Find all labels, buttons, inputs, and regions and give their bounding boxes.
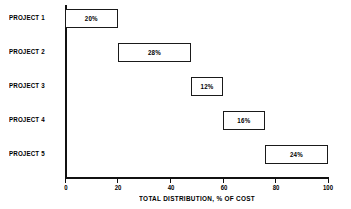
x-axis-tick-100 xyxy=(328,179,329,183)
x-axis-tick-60 xyxy=(223,179,224,183)
x-axis-title: TOTAL DISTRIBUTION, % OF COST xyxy=(65,194,329,202)
bar-project-5: 24% xyxy=(265,145,328,164)
bar-value-label-project-1: 20% xyxy=(85,14,98,22)
x-axis-line xyxy=(65,177,329,179)
bar-project-4: 16% xyxy=(223,111,265,130)
bar-project-3: 12% xyxy=(191,77,223,96)
x-axis-tick-80 xyxy=(275,179,276,183)
category-label-project-3: PROJECT 3 xyxy=(9,81,65,90)
x-axis-tick-label-100: 100 xyxy=(323,184,333,191)
bar-value-label-project-5: 24% xyxy=(290,150,303,158)
x-axis-tick-label-0: 0 xyxy=(64,184,67,191)
bar-project-2: 28% xyxy=(118,43,192,62)
y-axis-line xyxy=(65,5,67,179)
bar-value-label-project-3: 12% xyxy=(201,82,214,90)
bar-value-label-project-4: 16% xyxy=(237,116,250,124)
x-axis-tick-0 xyxy=(65,179,66,183)
x-axis-tick-label-20: 20 xyxy=(115,184,122,191)
bar-project-1: 20% xyxy=(65,9,118,28)
cascading-bar-chart: PROJECT 1 PROJECT 2 PROJECT 3 PROJECT 4 … xyxy=(0,0,351,209)
category-label-project-5: PROJECT 5 xyxy=(9,149,65,158)
category-label-project-1: PROJECT 1 xyxy=(9,13,65,22)
x-axis-tick-20 xyxy=(117,179,118,183)
x-axis-tick-label-80: 80 xyxy=(273,184,280,191)
category-label-project-2: PROJECT 2 xyxy=(9,47,65,56)
x-axis-tick-40 xyxy=(170,179,171,183)
category-axis-labels: PROJECT 1 PROJECT 2 PROJECT 3 PROJECT 4 … xyxy=(8,0,65,190)
bar-value-label-project-2: 28% xyxy=(148,48,161,56)
x-axis-tick-label-40: 40 xyxy=(168,184,175,191)
category-label-project-4: PROJECT 4 xyxy=(9,115,65,124)
x-axis-tick-label-60: 60 xyxy=(221,184,228,191)
